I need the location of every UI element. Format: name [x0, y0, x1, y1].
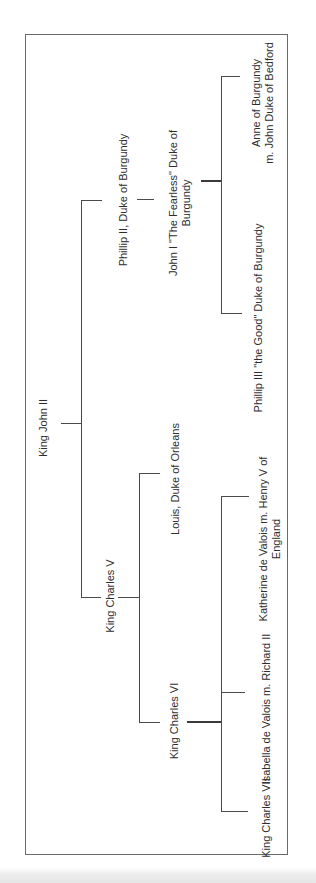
node-label: King John II	[37, 399, 50, 457]
connector-charles-vi-join	[187, 721, 222, 723]
connector-phillip-ii-to-john-i	[137, 199, 154, 200]
node-label: Phillip III "the Good" Duke of Burgundy	[252, 224, 265, 413]
node-label: King Charles V	[104, 559, 117, 632]
connector-to-charles-v-a	[81, 597, 101, 598]
connector-charles-vi-children-trunk	[221, 496, 222, 812]
node-label-line2: m. John Duke of Bedford	[263, 42, 276, 164]
node-king-charles-vii: King Charles VII	[260, 778, 273, 857]
node-label: King Charles VII	[260, 778, 273, 857]
connector-king-john-ii	[61, 423, 82, 424]
node-label-line1: Katherine de Valois m. Henry V of	[257, 457, 270, 622]
node-john-i: John I "The Fearless" Duke of Burgundy	[167, 130, 193, 276]
node-label-line1: Anne of Burgundy	[250, 42, 263, 164]
node-phillip-ii: Phillip II, Duke of Burgundy	[117, 134, 130, 267]
connector-to-isabella	[221, 692, 245, 693]
node-label: King Charles VI	[168, 683, 181, 759]
node-label: Louis, Duke of Orleans	[169, 423, 182, 535]
connector-john-ii-children-trunk	[81, 200, 82, 598]
node-katherine-de-valois: Katherine de Valois m. Henry V of Englan…	[257, 457, 283, 622]
connector-to-katherine	[221, 496, 249, 497]
node-label-line2: England	[270, 457, 283, 622]
diagram-frame	[25, 34, 288, 855]
connector-to-louis	[139, 473, 160, 474]
page-bottom-edge	[0, 868, 316, 883]
connector-charles-v-children-trunk	[139, 473, 140, 723]
connector-john-i-join	[201, 180, 222, 182]
connector-to-phillip-iii	[221, 313, 242, 314]
connector-to-charles-v-b	[118, 597, 140, 598]
document-page: King John II Phillip II, Duke of Burgund…	[0, 0, 316, 883]
connector-to-charles-vii	[221, 811, 248, 812]
node-louis-duke-of-orleans: Louis, Duke of Orleans	[169, 423, 182, 535]
node-king-charles-vi: King Charles VI	[168, 683, 181, 759]
node-isabella-de-valois: Isabella de Valois m. Richard II	[260, 634, 273, 785]
node-anne-of-burgundy: Anne of Burgundy m. John Duke of Bedford	[250, 42, 276, 164]
node-label: Isabella de Valois m. Richard II	[260, 634, 273, 785]
connector-john-i-children-trunk	[221, 76, 222, 314]
node-king-john-ii: King John II	[37, 399, 50, 457]
connector-to-phillip-ii	[81, 200, 102, 201]
node-phillip-iii: Phillip III "the Good" Duke of Burgundy	[252, 224, 265, 413]
node-label: Phillip II, Duke of Burgundy	[117, 134, 130, 267]
node-label-line2: Burgundy	[180, 130, 193, 276]
node-king-charles-v: King Charles V	[104, 559, 117, 632]
connector-to-charles-vi	[139, 722, 160, 723]
connector-to-anne	[221, 76, 240, 77]
node-label-line1: John I "The Fearless" Duke of	[167, 130, 180, 276]
